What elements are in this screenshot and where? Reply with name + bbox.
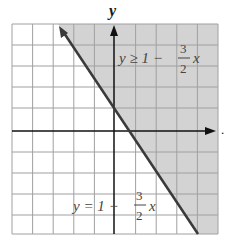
y-axis-label: y xyxy=(107,2,117,20)
svg-text:3: 3 xyxy=(180,41,187,56)
svg-text:y ≥ 1 −: y ≥ 1 − xyxy=(117,50,163,66)
svg-text:x: x xyxy=(148,198,156,214)
svg-text:2: 2 xyxy=(136,208,143,223)
svg-text:x: x xyxy=(192,50,200,66)
trailing-period: . xyxy=(221,122,224,137)
svg-text:2: 2 xyxy=(180,61,187,76)
inequality-graph: y . y ≥ 1 − 3 2 x y = 1 − 3 2 x xyxy=(0,0,226,241)
svg-text:3: 3 xyxy=(136,188,143,203)
svg-text:y = 1 −: y = 1 − xyxy=(71,198,119,214)
